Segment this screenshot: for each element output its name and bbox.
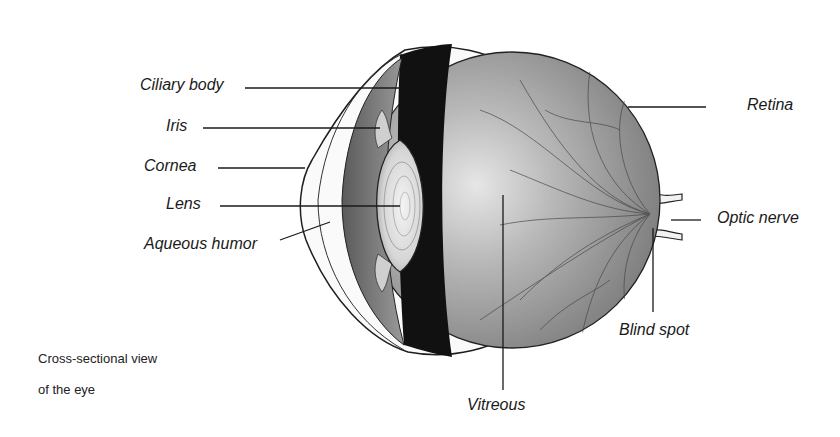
label-ciliary-body: Ciliary body [140, 77, 224, 93]
label-blind-spot: Blind spot [619, 322, 689, 338]
label-optic-nerve: Optic nerve [717, 210, 799, 226]
label-cornea: Cornea [144, 158, 196, 174]
label-lens: Lens [166, 196, 201, 212]
label-vitreous: Vitreous [467, 397, 525, 413]
eye-diagram: Ciliary body Iris Cornea Lens Aqueous hu… [0, 0, 840, 437]
label-retina: Retina [747, 97, 793, 113]
label-aqueous-humor: Aqueous humor [144, 236, 257, 252]
eye-illustration [0, 0, 840, 437]
label-iris: Iris [166, 118, 187, 134]
caption-line-2: of the eye [38, 383, 95, 396]
caption-line-1: Cross-sectional view [38, 352, 157, 365]
